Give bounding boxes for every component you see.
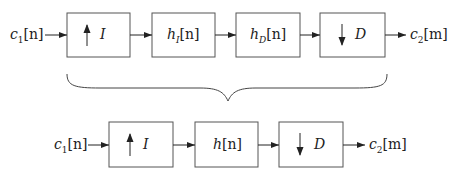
signal-base: c xyxy=(369,136,377,152)
bottom-upsampler-label: I xyxy=(143,136,149,152)
signal-base: c xyxy=(410,26,418,42)
bottom-upsampler-block xyxy=(109,122,173,167)
top-input-label: c1[n] xyxy=(10,26,44,45)
filter-base: h xyxy=(213,136,222,152)
top-upsampler-label: I xyxy=(100,26,106,42)
top-downsampler-block xyxy=(320,13,385,57)
filter-base: h xyxy=(167,26,176,42)
factor-label: D xyxy=(314,136,325,152)
filter-index: [n] xyxy=(222,136,242,152)
top-upsampler-block xyxy=(67,13,130,57)
filter-base: h xyxy=(250,26,259,42)
equivalence-brace xyxy=(67,74,387,101)
bottom-input-label: c1[n] xyxy=(54,136,88,155)
signal-index: [n] xyxy=(24,26,44,42)
top-downsampler-label: D xyxy=(355,26,366,42)
factor-label: D xyxy=(355,26,366,42)
top-filter-hi-label: hI[n] xyxy=(167,26,200,45)
signal-base: c xyxy=(10,26,18,42)
signal-index: [m] xyxy=(383,136,407,152)
signal-base: c xyxy=(54,136,62,152)
factor-label: I xyxy=(143,136,149,152)
filter-index: [n] xyxy=(266,26,286,42)
top-filter-hd-label: hD[n] xyxy=(250,26,286,45)
bottom-downsampler-label: D xyxy=(314,136,325,152)
top-output-label: c2[m] xyxy=(410,26,448,45)
bottom-filter-h-label: h[n] xyxy=(213,136,242,152)
signal-index: [m] xyxy=(424,26,448,42)
bottom-downsampler-block xyxy=(279,122,343,167)
filter-index: [n] xyxy=(180,26,200,42)
factor-label: I xyxy=(100,26,106,42)
bottom-output-label: c2[m] xyxy=(369,136,407,155)
signal-index: [n] xyxy=(68,136,88,152)
